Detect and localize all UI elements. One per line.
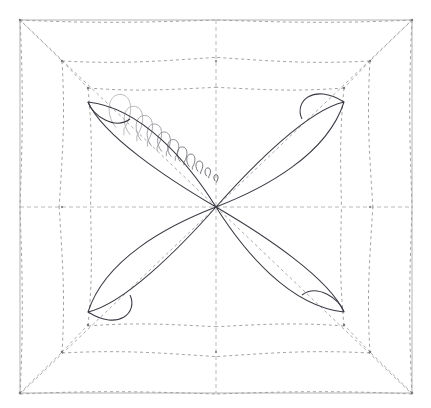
node-ll-inner [87,324,89,326]
axis-tick-node [61,206,63,208]
node-ul-outer [61,60,63,62]
axis-tick-node [215,351,217,353]
node-lr-inner [343,324,345,326]
node-top-right [411,19,413,21]
node-bottom-right [411,392,413,394]
node-ur-inner [343,87,345,89]
node-ll-outer [61,351,63,353]
node-top-left [19,19,21,21]
node-bottom-left [19,392,21,394]
axis-tick-node [215,60,217,62]
figure-root [0,0,431,408]
axis-tick-node [369,206,371,208]
node-ur-outer [369,60,371,62]
node-ul-inner [87,87,89,89]
node-lr-outer [369,351,371,353]
geometric-figure-canvas [0,0,431,408]
